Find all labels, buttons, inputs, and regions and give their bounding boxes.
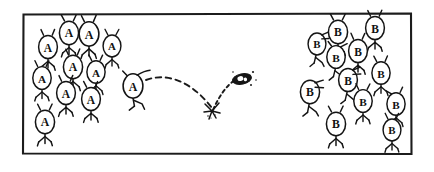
figure-a: A	[79, 15, 99, 58]
figure-b: B	[372, 56, 390, 96]
figure-a: A	[35, 104, 54, 146]
flight-path	[146, 77, 235, 110]
figure-b: B	[354, 84, 372, 124]
figure-b: B	[308, 32, 329, 66]
figure-b: B	[300, 80, 323, 116]
thrown-rock	[232, 71, 257, 86]
figure-a: A	[103, 29, 121, 68]
figure-b: B	[366, 10, 385, 51]
figure-a: A	[59, 15, 78, 57]
figure-a-thrower: A	[123, 70, 150, 110]
group-b-crowd: B B B	[300, 10, 405, 152]
group-a-crowd: A A A	[33, 15, 150, 146]
scene-canvas: A A A	[0, 0, 434, 172]
impact-burst	[204, 103, 220, 119]
cartoon-scene: A A A	[0, 0, 434, 172]
figure-b: B	[326, 106, 345, 148]
